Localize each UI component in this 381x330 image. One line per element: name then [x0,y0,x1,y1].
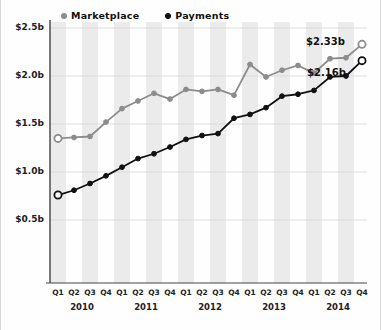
y-axis-tick-label: $0.5b [4,214,44,224]
x-axis-year-label: 2011 [114,302,178,312]
x-axis-quarter-label: Q3 [82,288,98,297]
x-axis-year-label: 2014 [306,302,370,312]
x-axis-quarter-label: Q1 [178,288,194,297]
x-axis-quarter-label: Q4 [226,288,242,297]
x-axis-year-label: 2010 [50,302,114,312]
x-axis-quarter-label: Q3 [338,288,354,297]
x-axis-quarter-label: Q2 [258,288,274,297]
x-axis-quarter-label: Q1 [50,288,66,297]
x-axis-year-label: 2013 [242,302,306,312]
x-axis-quarter-label: Q3 [274,288,290,297]
y-axis-tick-label: $2.0b [4,70,44,80]
x-axis-quarter-label: Q1 [306,288,322,297]
x-axis-quarter-label: Q2 [130,288,146,297]
x-axis-quarter-label: Q4 [98,288,114,297]
x-axis-quarter-label: Q3 [146,288,162,297]
x-axis-quarter-label: Q2 [194,288,210,297]
x-axis-quarter-label: Q1 [242,288,258,297]
y-axis-tick-label: $2.5b [4,22,44,32]
payments-end-label: $2.16b [307,67,346,78]
x-axis-year-label: 2012 [178,302,242,312]
x-axis-quarter-label: Q4 [162,288,178,297]
y-axis-tick-label: $1.0b [4,166,44,176]
y-axis-tick-label: $1.5b [4,118,44,128]
x-axis-quarter-label: Q2 [66,288,82,297]
x-axis-quarter-label: Q4 [290,288,306,297]
x-axis-quarter-label: Q1 [114,288,130,297]
chart-container: Marketplace Payments $2.33b $2.16b $0.5b… [0,0,381,330]
x-axis-quarter-label: Q2 [322,288,338,297]
marketplace-end-label: $2.33b [306,36,345,47]
x-axis-quarter-label: Q4 [354,288,370,297]
x-axis-quarter-label: Q3 [210,288,226,297]
line-chart-plot [1,0,381,330]
